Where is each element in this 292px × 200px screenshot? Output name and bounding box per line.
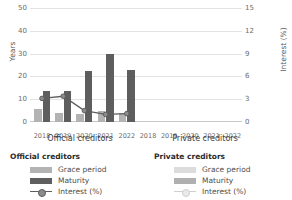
legend-group-private: Private creditors Grace period Maturity … <box>152 152 292 197</box>
interest-point-2019 <box>61 94 66 99</box>
legend-title-official: Official creditors <box>10 152 148 161</box>
panel-caption-private: Private creditors <box>145 134 265 143</box>
legend-item-official-interest[interactable]: Interest (%) <box>30 186 148 197</box>
y-tick-left-30: 30 <box>3 51 27 58</box>
y-tick-right-9: 9 <box>245 51 269 58</box>
interest-point-2018 <box>40 96 45 101</box>
y-tick-left-10: 10 <box>3 96 27 103</box>
legend-swatch-interest-private <box>174 188 196 195</box>
y-tick-right-0: 0 <box>245 119 269 126</box>
legend-label-grace-private: Grace period <box>202 165 251 174</box>
legend-item-private-grace[interactable]: Grace period <box>174 164 292 175</box>
plot-area: 50 40 30 20 10 0 15 12 9 6 3 0 201820192… <box>30 8 242 122</box>
legend-label-interest-private: Interest (%) <box>202 187 246 196</box>
legend-item-private-interest[interactable]: Interest (%) <box>174 186 292 197</box>
y-tick-left-50: 50 <box>3 5 27 12</box>
y-tick-left-20: 20 <box>3 73 27 80</box>
interest-point-2022 <box>125 111 130 116</box>
y-axis-title-right: Interest (%) <box>279 17 288 83</box>
legend: Official creditors Grace period Maturity… <box>0 152 292 200</box>
legend-title-private: Private creditors <box>154 152 292 161</box>
legend-item-private-maturity[interactable]: Maturity <box>174 175 292 186</box>
legend-swatch-grace-private <box>174 167 196 173</box>
chart-root: Years Interest (%) 50 40 30 20 10 0 15 1… <box>0 0 292 200</box>
legend-group-official: Official creditors Grace period Maturity… <box>8 152 148 197</box>
y-tick-left-0: 0 <box>3 119 27 126</box>
legend-label-maturity-official: Maturity <box>58 176 89 185</box>
legend-item-official-maturity[interactable]: Maturity <box>30 175 148 186</box>
legend-label-interest-official: Interest (%) <box>58 187 102 196</box>
legend-swatch-interest-official <box>30 188 52 195</box>
legend-swatch-maturity-private <box>174 178 196 184</box>
interest-point-2020 <box>82 108 87 113</box>
legend-item-official-grace[interactable]: Grace period <box>30 164 148 175</box>
y-tick-right-15: 15 <box>245 5 269 12</box>
panel-caption-official: Official creditors <box>20 134 140 143</box>
interest-line-official <box>30 8 242 122</box>
legend-label-maturity-private: Maturity <box>202 176 233 185</box>
interest-point-2021 <box>103 112 108 117</box>
legend-label-grace-official: Grace period <box>58 165 107 174</box>
legend-swatch-maturity-official <box>30 178 52 184</box>
y-tick-right-12: 12 <box>245 28 269 35</box>
y-tick-left-40: 40 <box>3 28 27 35</box>
y-tick-right-6: 6 <box>245 73 269 80</box>
legend-swatch-grace-official <box>30 167 52 173</box>
y-tick-right-3: 3 <box>245 96 269 103</box>
